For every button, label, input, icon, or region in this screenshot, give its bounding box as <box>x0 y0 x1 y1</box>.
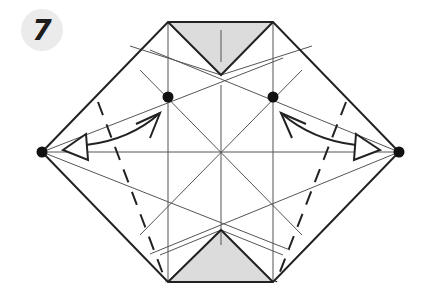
left-valley-fold <box>98 102 166 282</box>
left-point-dot <box>37 147 48 158</box>
right-valley-fold <box>276 102 346 282</box>
origami-diagram <box>0 0 431 298</box>
right-point-dot <box>394 147 405 158</box>
upper-left-dot <box>163 92 174 103</box>
right-push-arrow <box>281 113 380 160</box>
crease-lines <box>42 22 399 282</box>
upper-right-dot <box>268 92 279 103</box>
